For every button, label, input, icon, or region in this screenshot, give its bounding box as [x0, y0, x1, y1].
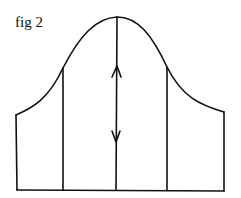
baseline: [17, 190, 224, 191]
center-line: [116, 17, 117, 190]
left-edge: [16, 115, 17, 190]
bell-curve: [16, 17, 224, 115]
bell-curve-diagram: [0, 0, 241, 198]
